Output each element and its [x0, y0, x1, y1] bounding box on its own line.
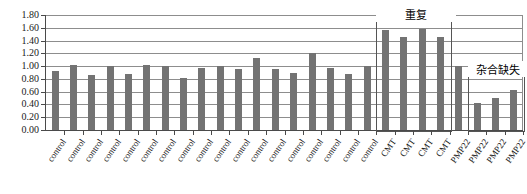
annotation-label: 杂合缺失	[468, 61, 527, 77]
x-axis-label-text: CMT	[379, 137, 398, 159]
y-tick-mark	[41, 66, 46, 67]
y-tick-label: 0.60	[22, 87, 40, 97]
plot-area	[46, 15, 523, 130]
bar-slot	[266, 15, 284, 130]
bar-slot	[156, 15, 174, 130]
bar-slot	[303, 15, 321, 130]
bar-slot	[211, 15, 229, 130]
bar-slot	[248, 15, 266, 130]
bar-slot	[285, 15, 303, 130]
y-tick-label: 0.80	[22, 74, 40, 84]
y-tick-mark	[41, 92, 46, 93]
y-tick-label: 0.40	[22, 99, 40, 109]
y-tick-label: 0.20	[22, 112, 40, 122]
bar-slot	[138, 15, 156, 130]
y-axis: 0.000.200.400.600.801.001.201.401.601.80	[0, 0, 44, 140]
bar-slot	[450, 15, 468, 130]
bar-slot	[321, 15, 339, 130]
y-tick-mark	[41, 53, 46, 54]
y-tick-mark	[41, 41, 46, 42]
x-axis-labels: controlcontrolcontrolcontrolcontrolcontr…	[46, 131, 523, 194]
y-tick-mark	[41, 104, 46, 105]
bar-slot	[119, 15, 137, 130]
bar-chart: 0.000.200.400.600.801.001.201.401.601.80…	[0, 0, 527, 194]
y-tick-mark	[41, 130, 46, 131]
x-axis-label-text: CMT	[398, 137, 417, 159]
bar-slot	[46, 15, 64, 130]
bar-slot	[83, 15, 101, 130]
y-tick-label: 0.00	[22, 125, 40, 135]
y-tick-mark	[41, 79, 46, 80]
bar-slot	[101, 15, 119, 130]
annotation-label: 重复	[376, 6, 455, 22]
y-tick-label: 1.60	[22, 23, 40, 33]
bar	[52, 71, 59, 130]
y-tick-label: 1.00	[22, 61, 40, 71]
bar-slot	[358, 15, 376, 130]
y-tick-mark	[41, 117, 46, 118]
annotation-box	[376, 20, 451, 132]
bar-slot	[174, 15, 192, 130]
bar-slot	[193, 15, 211, 130]
bar-slot	[340, 15, 358, 130]
y-tick-label: 1.80	[22, 10, 40, 20]
bar-slot	[229, 15, 247, 130]
y-tick-label: 1.20	[22, 48, 40, 58]
y-tick-label: 1.40	[22, 36, 40, 46]
y-tick-mark	[41, 15, 46, 16]
x-axis-label-text: control	[46, 137, 69, 164]
bar-slot	[64, 15, 82, 130]
y-tick-mark	[41, 28, 46, 29]
